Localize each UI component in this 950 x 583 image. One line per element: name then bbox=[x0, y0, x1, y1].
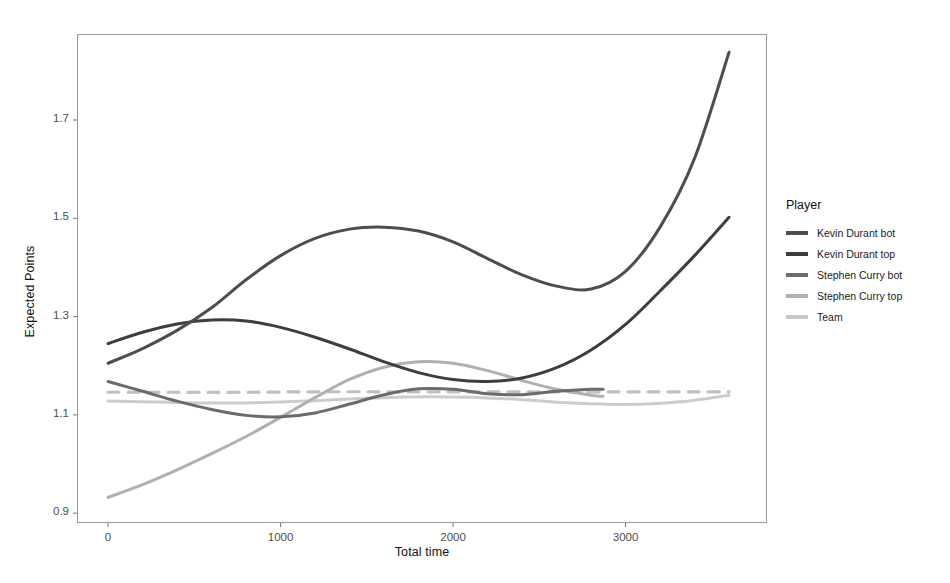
legend-item-label: Stephen Curry top bbox=[817, 290, 902, 302]
legend-item-label: Stephen Curry bot bbox=[817, 269, 902, 281]
legend-item: Team bbox=[786, 306, 946, 327]
legend-key-swatch bbox=[786, 231, 808, 235]
legend-title: Player bbox=[786, 198, 946, 212]
legend-item: Stephen Curry top bbox=[786, 285, 946, 306]
legend-item: Kevin Durant bot bbox=[786, 222, 946, 243]
legend-item-label: Kevin Durant bot bbox=[817, 227, 895, 239]
legend-key-swatch bbox=[786, 252, 808, 256]
legend-item-label: Team bbox=[817, 311, 843, 323]
legend-key-swatch bbox=[786, 315, 808, 319]
legend: Player Kevin Durant botKevin Durant topS… bbox=[786, 198, 946, 327]
legend-item: Stephen Curry bot bbox=[786, 264, 946, 285]
legend-key-swatch bbox=[786, 294, 808, 298]
chart-figure: Expected Points Total time 0.91.11.31.51… bbox=[0, 0, 950, 583]
legend-entries: Kevin Durant botKevin Durant topStephen … bbox=[786, 222, 946, 327]
legend-key-swatch bbox=[786, 273, 808, 277]
legend-item: Kevin Durant top bbox=[786, 243, 946, 264]
legend-item-label: Kevin Durant top bbox=[817, 248, 895, 260]
